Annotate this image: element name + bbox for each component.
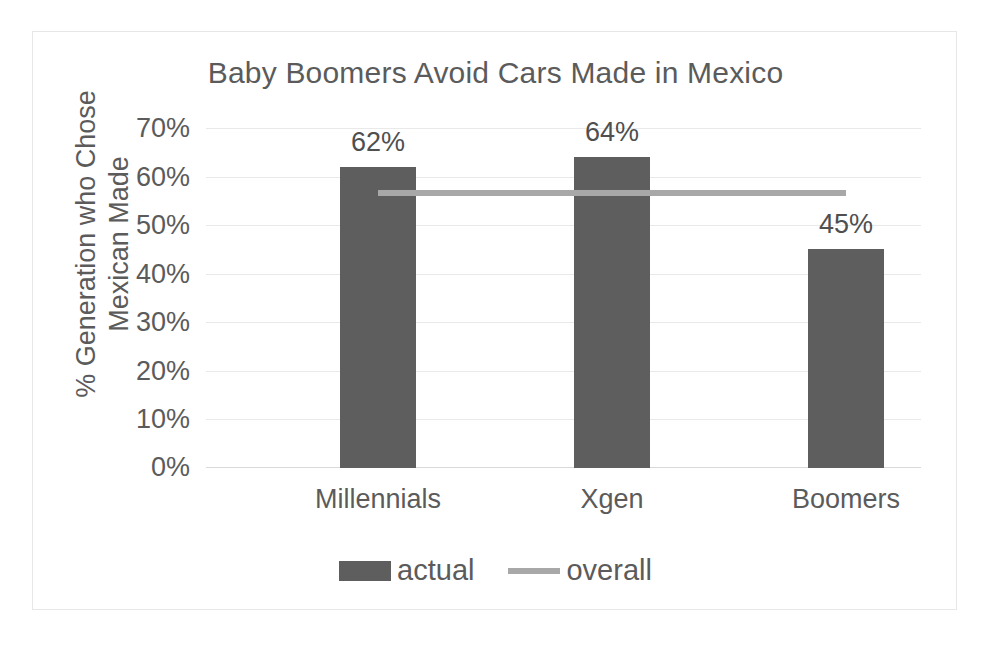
bar-label-boomers: 45% (819, 209, 873, 240)
bar-xgen[interactable]: 64% (574, 157, 650, 468)
bar-millennials[interactable]: 62% (340, 167, 416, 468)
legend-line-swatch-icon (508, 568, 560, 574)
y-axis-title-line-1: % Generation who Chose (70, 44, 103, 444)
y-tick-label-50: 50% (100, 210, 190, 241)
y-tick-label-60: 60% (100, 161, 190, 192)
legend-label-actual: actual (397, 554, 474, 587)
bar-boomers[interactable]: 45% (808, 249, 884, 468)
bar-label-xgen: 64% (585, 117, 639, 148)
y-tick-label-0: 0% (100, 452, 190, 483)
gridline-50: 50% (206, 225, 921, 226)
legend-bar-swatch-icon (339, 561, 391, 581)
y-tick-label-20: 20% (100, 355, 190, 386)
gridline-70: 70% (206, 128, 921, 129)
x-tick-label-xgen: Xgen (580, 484, 643, 515)
y-tick-label-40: 40% (100, 258, 190, 289)
chart-frame: Baby Boomers Avoid Cars Made in Mexico %… (32, 31, 957, 610)
y-tick-label-70: 70% (100, 113, 190, 144)
legend-label-overall: overall (566, 554, 651, 587)
gridline-60: 60% (206, 177, 921, 178)
y-tick-label-10: 10% (100, 404, 190, 435)
plot-area: 70% 60% 50% 40% 30% 20% 10% 0% (206, 128, 921, 468)
x-tick-label-millennials: Millennials (315, 484, 441, 515)
chart-title: Baby Boomers Avoid Cars Made in Mexico (33, 56, 958, 90)
legend-item-overall[interactable]: overall (508, 554, 651, 587)
chart-legend: actual overall (33, 554, 958, 587)
overall-average-line[interactable] (378, 190, 846, 196)
chart-page: Baby Boomers Avoid Cars Made in Mexico %… (0, 0, 988, 645)
x-tick-label-boomers: Boomers (792, 484, 900, 515)
y-tick-label-30: 30% (100, 307, 190, 338)
legend-item-actual[interactable]: actual (339, 554, 474, 587)
bar-label-millennials: 62% (351, 127, 405, 158)
